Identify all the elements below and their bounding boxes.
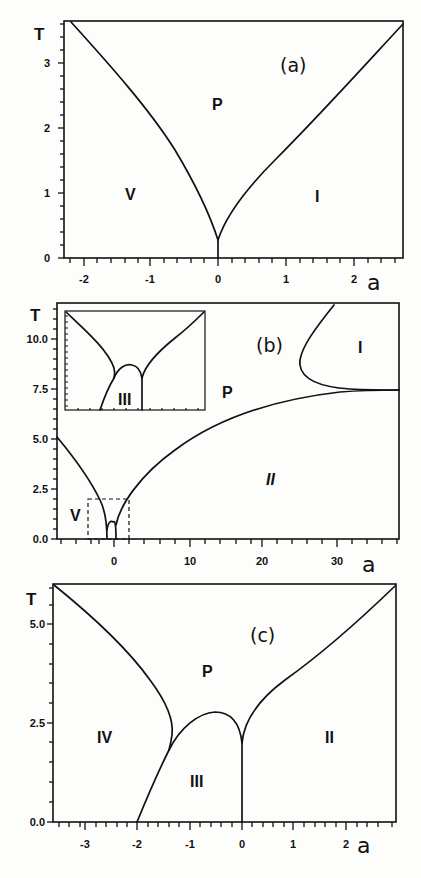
phase-diagram-figure: 0 1 2 3 T bbox=[0, 0, 421, 878]
panel-c-xtick-neg2: -2 bbox=[132, 838, 142, 850]
panel-b: 0.0 2.5 5.0 7.5 10.0 T bbox=[27, 303, 399, 577]
panel-a-region-p: P bbox=[212, 96, 223, 113]
panel-b-x-ticks bbox=[61, 539, 397, 547]
panel-a-xtick-neg1: -1 bbox=[145, 273, 155, 285]
panel-a-region-v: V bbox=[125, 186, 136, 203]
panel-b-region-ii: II bbox=[266, 471, 275, 488]
panel-b-v-small-dome bbox=[107, 521, 116, 539]
panel-b-inset-iii-left bbox=[100, 378, 114, 410]
panel-a: 0 1 2 3 T bbox=[34, 21, 403, 295]
panel-a-v-p-boundary bbox=[71, 22, 218, 258]
panel-c-xtick-1: 1 bbox=[290, 838, 296, 850]
panel-c-x-axis-label: a bbox=[357, 833, 370, 858]
panel-c-frame bbox=[53, 584, 396, 822]
panel-b-label: (b) bbox=[256, 334, 283, 356]
panel-b-ytick-10: 10.0 bbox=[27, 333, 48, 345]
panel-b-xtick-20: 20 bbox=[256, 555, 268, 567]
panel-b-ytick-0: 0.0 bbox=[33, 533, 48, 545]
panel-c-iii-p-dome bbox=[169, 712, 242, 750]
panel-b-inset-region-iii: III bbox=[118, 391, 131, 408]
panel-b-region-v: V bbox=[70, 507, 81, 524]
panel-a-ytick-1: 1 bbox=[44, 187, 50, 199]
panel-a-x-ticks bbox=[70, 258, 395, 266]
panel-c-ytick-5: 5.0 bbox=[30, 618, 45, 630]
panel-b-inset-frame bbox=[65, 311, 205, 410]
panel-c-iv-iii-boundary bbox=[137, 750, 169, 822]
panel-a-ytick-2: 2 bbox=[44, 122, 50, 134]
panel-a-frame bbox=[64, 21, 403, 258]
panel-c: 0.0 2.5 5.0 T bbox=[26, 584, 396, 858]
panel-b-v-p-boundary bbox=[57, 437, 107, 539]
panel-b-frame bbox=[57, 303, 399, 539]
panel-c-y-axis-label: T bbox=[26, 590, 37, 609]
panel-b-x-axis-label: a bbox=[362, 552, 375, 577]
panel-a-region-i: I bbox=[315, 188, 319, 205]
panel-b-ytick-5: 5.0 bbox=[33, 433, 48, 445]
panel-a-ytick-3: 3 bbox=[44, 57, 50, 69]
panel-c-p-ii-boundary bbox=[242, 586, 395, 743]
panel-c-region-ii: II bbox=[325, 729, 334, 746]
panel-b-p-i-boundary bbox=[300, 305, 399, 390]
panel-c-iv-p-boundary bbox=[54, 585, 172, 750]
panel-a-xtick-2: 2 bbox=[351, 273, 357, 285]
panel-b-inset-right-boundary bbox=[142, 312, 204, 378]
panel-c-label: (c) bbox=[250, 624, 275, 646]
panel-a-y-ticks bbox=[58, 24, 64, 258]
panel-a-ytick-0: 0 bbox=[44, 252, 50, 264]
panel-b-xtick-30: 30 bbox=[331, 555, 343, 567]
panel-a-xtick-1: 1 bbox=[283, 273, 289, 285]
panel-c-xtick-0: 0 bbox=[239, 838, 245, 850]
panel-c-y-ticks bbox=[47, 588, 53, 822]
panel-a-label: (a) bbox=[280, 54, 306, 76]
panel-c-xtick-2: 2 bbox=[343, 838, 349, 850]
panel-a-x-axis-label: a bbox=[367, 270, 380, 295]
panel-c-xtick-neg3: -3 bbox=[80, 838, 90, 850]
panel-b-xtick-0: 0 bbox=[111, 555, 117, 567]
panel-a-xtick-neg2: -2 bbox=[79, 273, 89, 285]
panel-b-y-ticks bbox=[51, 309, 57, 539]
panel-c-xtick-neg1: -1 bbox=[185, 838, 195, 850]
panel-b-ytick-2-5: 2.5 bbox=[33, 483, 48, 495]
panel-a-xtick-0: 0 bbox=[215, 273, 221, 285]
panel-b-region-p: P bbox=[222, 384, 233, 401]
panel-a-y-axis-label: T bbox=[34, 25, 45, 44]
panel-c-region-p: P bbox=[202, 663, 213, 680]
panel-c-x-ticks bbox=[59, 822, 392, 830]
panel-c-region-iv: IV bbox=[97, 729, 112, 746]
panel-c-ytick-2-5: 2.5 bbox=[30, 717, 45, 729]
panel-b-ytick-7-5: 7.5 bbox=[33, 383, 48, 395]
panel-b-inset-left-boundary bbox=[66, 312, 115, 378]
panel-b-y-axis-label: T bbox=[30, 306, 41, 325]
panel-b-inset: III bbox=[65, 311, 205, 410]
panel-b-xtick-10: 10 bbox=[184, 555, 196, 567]
panel-b-inset-iii-dome bbox=[114, 365, 142, 378]
panel-a-p-i-boundary bbox=[218, 24, 403, 240]
panel-c-ytick-0: 0.0 bbox=[30, 816, 45, 828]
panel-c-region-iii: III bbox=[190, 773, 203, 790]
panel-b-region-i: I bbox=[358, 339, 362, 356]
